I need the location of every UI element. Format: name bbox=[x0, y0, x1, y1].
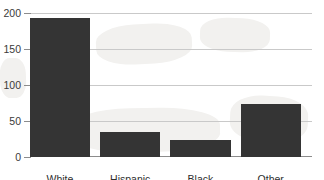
y-tick-label: 100 bbox=[3, 79, 21, 91]
plot-area: 050100150200 WhiteHispanicBlackOther bbox=[31, 13, 312, 157]
y-tick-label: 150 bbox=[3, 43, 21, 55]
x-tick-label: Black bbox=[188, 173, 214, 180]
bar bbox=[241, 104, 301, 157]
bar bbox=[30, 18, 90, 157]
y-tick-label: 200 bbox=[3, 7, 21, 19]
y-tick-label: 0 bbox=[15, 151, 21, 163]
bar bbox=[100, 132, 160, 157]
y-tick-label: 50 bbox=[9, 115, 21, 127]
bar-chart: 050100150200 WhiteHispanicBlackOther bbox=[0, 0, 324, 180]
x-tick-label: Hispanic bbox=[110, 173, 150, 180]
bar bbox=[170, 140, 230, 157]
x-tick-label: Other bbox=[258, 173, 284, 180]
scan-watermark-blotch bbox=[0, 58, 27, 99]
bar-series bbox=[31, 13, 312, 157]
y-tick-mark bbox=[24, 157, 31, 158]
x-tick-label: White bbox=[47, 173, 74, 180]
y-tick-mark bbox=[24, 13, 31, 14]
